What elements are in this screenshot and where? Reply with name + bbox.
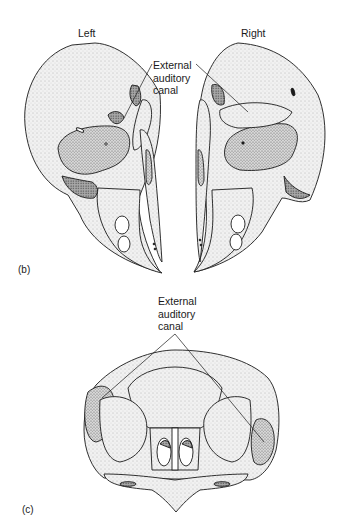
right-view-label: Right: [241, 27, 266, 39]
left-skull-lateral-view: [25, 43, 162, 273]
callout-c-line2: auditory: [158, 308, 197, 321]
callout-c-line3: canal: [158, 320, 197, 333]
callout-c-line1: External: [158, 295, 197, 308]
right-skull-lateral-view: [194, 43, 325, 272]
external-auditory-canal-callout-c: External auditory canal: [158, 295, 197, 333]
skull-frontal-view: [84, 334, 279, 512]
callout-b-line1: External: [153, 59, 192, 72]
external-auditory-canal-callout-b: External auditory canal: [153, 59, 192, 97]
panel-label-c: (c): [22, 504, 34, 515]
callout-b-line2: auditory: [153, 72, 192, 85]
left-view-label: Left: [78, 27, 96, 39]
callout-b-line3: canal: [153, 84, 192, 97]
panel-label-b: (b): [18, 264, 30, 275]
